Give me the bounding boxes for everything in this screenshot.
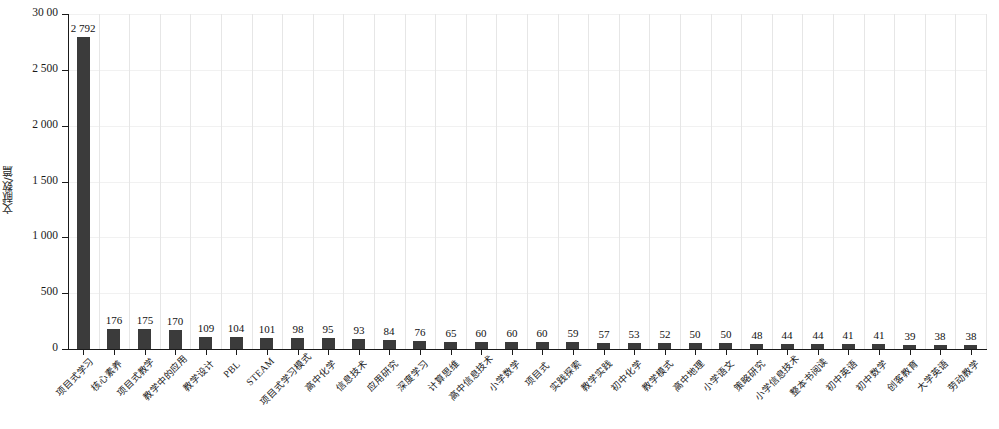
x-axis-tick bbox=[695, 350, 696, 355]
gridline-vertical bbox=[129, 14, 130, 349]
y-axis-tick bbox=[62, 349, 68, 350]
y-axis-tick bbox=[62, 14, 68, 15]
gridline-vertical bbox=[435, 14, 436, 349]
x-axis-label: 小学语文 bbox=[699, 356, 737, 394]
bar-value-label: 175 bbox=[137, 314, 154, 326]
bar bbox=[505, 342, 518, 349]
bar bbox=[199, 337, 212, 349]
x-axis-label: 创客教育 bbox=[883, 356, 921, 394]
bar bbox=[322, 338, 335, 349]
bar-value-label: 101 bbox=[259, 323, 276, 335]
bar-value-label: 39 bbox=[905, 330, 916, 342]
x-axis-tick bbox=[451, 350, 452, 355]
gridline-vertical bbox=[558, 14, 559, 349]
bar bbox=[260, 338, 273, 349]
x-axis-label: 项目式学习 bbox=[52, 354, 97, 399]
x-axis-label: 信息技术 bbox=[332, 356, 370, 394]
bar bbox=[352, 339, 365, 349]
x-axis-label: PBL bbox=[221, 359, 242, 380]
bar bbox=[536, 342, 549, 349]
bar-value-label: 65 bbox=[446, 327, 457, 339]
y-axis-label: 0 bbox=[0, 341, 58, 353]
gridline-vertical bbox=[711, 14, 712, 349]
x-axis-tick bbox=[542, 350, 543, 355]
bar-value-label: 50 bbox=[690, 328, 701, 340]
bar-value-label: 60 bbox=[507, 327, 518, 339]
gridline-vertical bbox=[160, 14, 161, 349]
bar bbox=[566, 342, 579, 349]
x-axis-tick bbox=[114, 350, 115, 355]
bar bbox=[291, 338, 304, 349]
bar bbox=[383, 340, 396, 349]
x-axis-tick bbox=[359, 350, 360, 355]
gridline-vertical bbox=[588, 14, 589, 349]
y-axis-label: 1 000 bbox=[0, 229, 58, 241]
y-axis-label: 1 500 bbox=[0, 174, 58, 186]
bar bbox=[107, 329, 120, 349]
bar-value-label: 60 bbox=[537, 327, 548, 339]
x-axis-tick bbox=[971, 350, 972, 355]
bar-value-label: 38 bbox=[966, 330, 977, 342]
x-axis-tick bbox=[848, 350, 849, 355]
gridline-vertical bbox=[527, 14, 528, 349]
gridline-vertical bbox=[313, 14, 314, 349]
x-axis-label: 高中地理 bbox=[669, 356, 707, 394]
x-axis-label: 初中数学 bbox=[852, 356, 890, 394]
x-axis-tick bbox=[389, 350, 390, 355]
gridline-vertical bbox=[864, 14, 865, 349]
plot-area bbox=[68, 14, 986, 349]
x-axis-label: 教学实践 bbox=[577, 356, 615, 394]
gridline-vertical bbox=[190, 14, 191, 349]
bar-value-label: 109 bbox=[198, 322, 215, 334]
bar-value-label: 41 bbox=[843, 329, 854, 341]
gridline-vertical bbox=[282, 14, 283, 349]
x-axis-tick bbox=[940, 350, 941, 355]
gridline-vertical bbox=[252, 14, 253, 349]
x-axis-tick bbox=[573, 350, 574, 355]
gridline-vertical bbox=[466, 14, 467, 349]
gridline-vertical bbox=[343, 14, 344, 349]
gridline-vertical bbox=[925, 14, 926, 349]
x-axis-tick bbox=[634, 350, 635, 355]
gridline-vertical bbox=[986, 14, 987, 349]
gridline-vertical bbox=[405, 14, 406, 349]
bar bbox=[230, 337, 243, 349]
bar-value-label: 44 bbox=[782, 329, 793, 341]
bar-value-label: 93 bbox=[354, 324, 365, 336]
x-axis-tick bbox=[665, 350, 666, 355]
bar bbox=[475, 342, 488, 349]
bar-value-label: 59 bbox=[568, 327, 579, 339]
bar-value-label: 2 792 bbox=[71, 22, 96, 34]
gridline-vertical bbox=[619, 14, 620, 349]
y-axis-tick bbox=[62, 70, 68, 71]
bar-value-label: 44 bbox=[813, 329, 824, 341]
x-axis-label: 深度学习 bbox=[393, 356, 431, 394]
bar-value-label: 84 bbox=[384, 325, 395, 337]
x-axis-tick bbox=[83, 350, 84, 355]
x-axis-tick bbox=[757, 350, 758, 355]
bar-value-label: 176 bbox=[106, 314, 123, 326]
y-axis-tick bbox=[62, 182, 68, 183]
x-axis-tick bbox=[726, 350, 727, 355]
x-axis-tick bbox=[512, 350, 513, 355]
bar-value-label: 104 bbox=[228, 322, 245, 334]
gridline-vertical bbox=[802, 14, 803, 349]
bar bbox=[413, 341, 426, 349]
bar-value-label: 98 bbox=[293, 323, 304, 335]
gridline-vertical bbox=[741, 14, 742, 349]
bar-value-label: 48 bbox=[752, 329, 763, 341]
y-axis-label: 30 00 bbox=[0, 6, 58, 18]
y-axis-tick bbox=[62, 237, 68, 238]
bar bbox=[77, 37, 90, 349]
gridline-vertical bbox=[99, 14, 100, 349]
gridline-vertical bbox=[374, 14, 375, 349]
x-axis-label: 大学英语 bbox=[913, 356, 951, 394]
x-axis-tick bbox=[879, 350, 880, 355]
x-axis-tick bbox=[910, 350, 911, 355]
y-axis-tick bbox=[62, 293, 68, 294]
bar-value-label: 76 bbox=[415, 326, 426, 338]
y-axis-label: 2 000 bbox=[0, 118, 58, 130]
bar-value-label: 53 bbox=[629, 328, 640, 340]
x-axis-label: 劳动教学 bbox=[944, 356, 982, 394]
gridline-vertical bbox=[496, 14, 497, 349]
